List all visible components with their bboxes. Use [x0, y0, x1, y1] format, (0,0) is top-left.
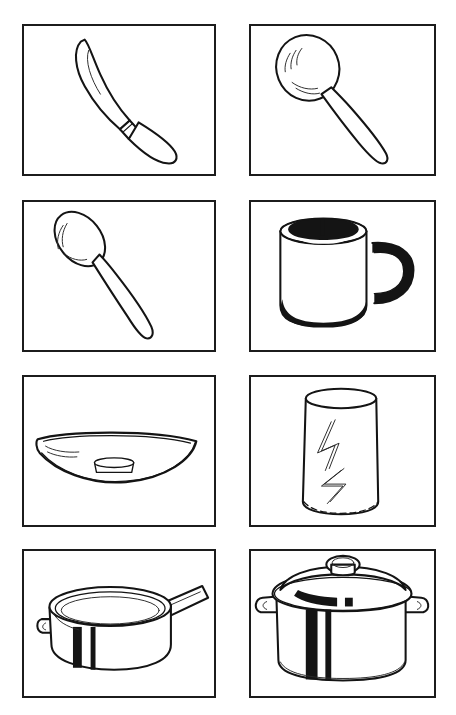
card-glass[interactable]: glass — [249, 375, 436, 527]
card-mug[interactable]: mug — [249, 200, 436, 352]
card-knife[interactable]: knife — [22, 24, 216, 176]
teaspoon-icon: teaspoon — [24, 202, 214, 350]
card-pot[interactable]: pot — [249, 549, 436, 698]
card-plate[interactable]: plate — [22, 375, 216, 527]
card-tablespoon[interactable]: spoon — [249, 24, 436, 176]
mug-icon: mug — [251, 202, 434, 350]
picture-card-sheet: knife spoon teaspoon — [0, 0, 456, 715]
saucepan-icon: saucepan — [24, 551, 214, 696]
pot-icon: pot — [251, 551, 434, 696]
plate-icon: plate — [24, 377, 214, 525]
knife-icon: knife — [24, 26, 214, 174]
spoon-icon: spoon — [251, 26, 434, 174]
glass-icon: glass — [251, 377, 434, 525]
card-saucepan[interactable]: saucepan — [22, 549, 216, 698]
card-teaspoon[interactable]: teaspoon — [22, 200, 216, 352]
